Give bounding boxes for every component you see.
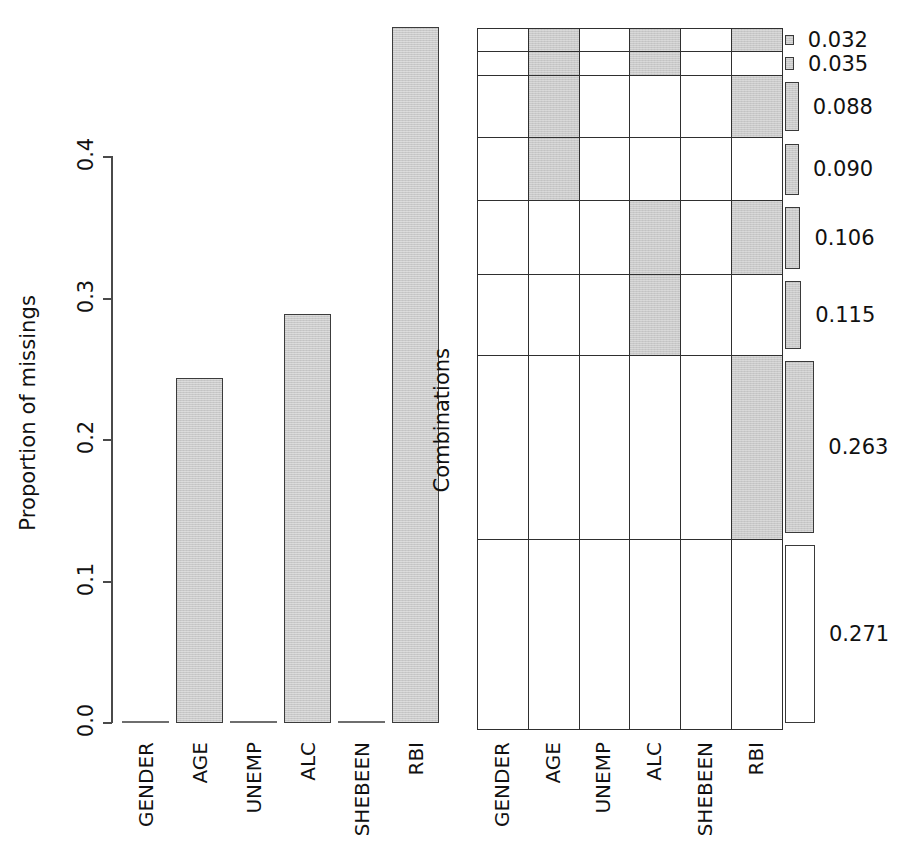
- legend-row: 0.088: [785, 76, 918, 138]
- matrix-cell-rbi: [731, 51, 783, 77]
- legend-row: 0.115: [785, 275, 918, 356]
- legend-row: 0.263: [785, 355, 918, 539]
- matrix-row: [478, 51, 782, 76]
- matrix-row: [478, 29, 782, 51]
- matrix-cell-unemp: [579, 539, 631, 730]
- matrix-cell-gender: [477, 200, 529, 275]
- matrix-x-tick-label-shebeen: SHEBEEN: [695, 742, 715, 841]
- matrix-cell-alc: [629, 355, 681, 540]
- matrix-cell-shebeen: [680, 137, 732, 201]
- matrix-cell-age: [528, 28, 580, 52]
- matrix-cell-rbi: [731, 75, 783, 138]
- legend-swatch: [785, 57, 794, 70]
- legend-swatch: [785, 144, 799, 195]
- matrix-cell-age: [528, 75, 580, 138]
- matrix-cell-age: [528, 137, 580, 201]
- right-panel-y-axis-label: Combinations: [432, 348, 453, 497]
- matrix-cell-rbi: [731, 137, 783, 201]
- y-tick-label-0.2: 0.2: [76, 421, 97, 459]
- matrix-cell-rbi: [731, 200, 783, 275]
- matrix-cell-alc: [629, 75, 681, 138]
- matrix-x-tick-label-age: AGE: [543, 742, 563, 788]
- x-tick-label-gender: GENDER: [136, 742, 156, 832]
- x-tick-label-rbi: RBI: [406, 742, 426, 781]
- missing-data-aggregation-plot: Proportion of missings 0.4 0.3 0.2 0.1: [0, 0, 918, 865]
- legend-label: 0.090: [813, 157, 873, 181]
- x-tick-label-age: AGE: [190, 742, 210, 788]
- matrix-cell-shebeen: [680, 200, 732, 275]
- legend-swatch: [785, 82, 799, 132]
- matrix-cell-shebeen: [680, 75, 732, 138]
- bar-gender: [122, 721, 169, 723]
- legend-row: 0.106: [785, 201, 918, 275]
- legend-row: 0.032: [785, 29, 918, 51]
- bar-age: [176, 378, 223, 724]
- matrix-cell-unemp: [579, 200, 631, 275]
- x-tick-label-alc: ALC: [298, 742, 318, 786]
- legend-swatch: [785, 35, 794, 45]
- matrix-row: [478, 76, 782, 138]
- matrix-cell-rbi: [731, 355, 783, 540]
- legend-swatch: [785, 281, 801, 350]
- legend-label: 0.115: [815, 303, 875, 327]
- matrix-row: [478, 355, 782, 539]
- legend-swatch: [785, 361, 814, 533]
- matrix-row: [478, 201, 782, 275]
- matrix-cell-shebeen: [680, 539, 732, 730]
- matrix-cell-age: [528, 200, 580, 275]
- matrix-cell-gender: [477, 28, 529, 52]
- matrix-x-tick-label-alc: ALC: [644, 742, 664, 786]
- matrix-cell-unemp: [579, 75, 631, 138]
- x-tick-label-unemp: UNEMP: [244, 742, 264, 819]
- matrix-x-tick-label-gender: GENDER: [492, 742, 512, 832]
- y-tick-0.3: 0.3: [103, 298, 112, 300]
- matrix-cell-shebeen: [680, 274, 732, 356]
- matrix-cell-alc: [629, 137, 681, 201]
- matrix-cell-unemp: [579, 355, 631, 540]
- matrix-cell-gender: [477, 51, 529, 77]
- legend-swatch: [785, 545, 815, 723]
- legend-label: 0.032: [808, 28, 868, 52]
- matrix-row: [478, 138, 782, 201]
- matrix-cell-unemp: [579, 137, 631, 201]
- right-panel-y-axis-label-text: Combinations: [432, 348, 453, 492]
- matrix-cell-gender: [477, 355, 529, 540]
- legend-row: 0.271: [785, 539, 918, 729]
- matrix-cell-gender: [477, 539, 529, 730]
- matrix-cell-shebeen: [680, 51, 732, 77]
- legend-label: 0.106: [814, 226, 874, 250]
- bar-shebeen: [338, 721, 385, 723]
- legend-label: 0.088: [813, 95, 873, 119]
- legend-swatch: [785, 207, 800, 269]
- proportion-of-missings-barplot: Proportion of missings 0.4 0.3 0.2 0.1: [0, 0, 460, 865]
- y-tick-label-0.3: 0.3: [76, 279, 97, 317]
- matrix-row: [478, 275, 782, 356]
- matrix-cell-rbi: [731, 274, 783, 356]
- combinations-matrix-panel: Combinations 0.0320.0350.0880.0900.1060.…: [430, 0, 918, 865]
- bar-unemp: [230, 721, 277, 723]
- matrix-cell-alc: [629, 200, 681, 275]
- matrix-cell-shebeen: [680, 355, 732, 540]
- left-panel-y-axis-label-text: Proportion of missings: [18, 295, 39, 531]
- left-panel-y-axis-label: Proportion of missings: [18, 295, 39, 536]
- legend-label: 0.271: [829, 622, 889, 646]
- matrix-cell-unemp: [579, 274, 631, 356]
- matrix-x-tick-label-rbi: RBI: [746, 742, 766, 781]
- matrix-cell-alc: [629, 539, 681, 730]
- matrix-cell-alc: [629, 274, 681, 356]
- legend-label: 0.263: [828, 435, 888, 459]
- y-tick-label-0.0: 0.0: [76, 704, 97, 742]
- matrix-cell-rbi: [731, 28, 783, 52]
- matrix-cell-age: [528, 355, 580, 540]
- y-tick-label-0.4: 0.4: [76, 138, 97, 176]
- matrix-cell-unemp: [579, 28, 631, 52]
- matrix-cell-alc: [629, 28, 681, 52]
- legend-row: 0.090: [785, 138, 918, 201]
- matrix-cell-rbi: [731, 539, 783, 730]
- legend-label: 0.035: [808, 52, 868, 76]
- x-tick-label-shebeen: SHEBEEN: [352, 742, 372, 841]
- y-tick-0.1: 0.1: [103, 581, 112, 583]
- combinations-legend: 0.0320.0350.0880.0900.1060.1150.2630.271: [785, 29, 918, 729]
- matrix-cell-alc: [629, 51, 681, 77]
- legend-row: 0.035: [785, 51, 918, 76]
